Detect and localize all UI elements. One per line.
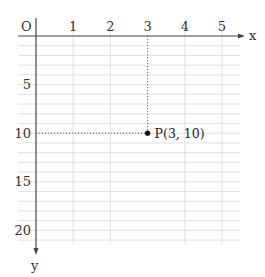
coordinate-plane: O x y 12345 5101520 P(3, 10) [0, 0, 265, 277]
y-axis-label: y [30, 258, 39, 273]
y-tick-label: 15 [14, 174, 31, 189]
y-tick-label: 5 [23, 77, 31, 92]
x-tick-label: 2 [106, 19, 114, 34]
axes [18, 18, 245, 255]
origin-label: O [21, 19, 32, 34]
point-label: P(3, 10) [155, 126, 205, 141]
y-tick-label: 20 [14, 223, 31, 238]
data-points: P(3, 10) [145, 126, 205, 141]
point-marker [145, 131, 150, 136]
x-axis-label: x [249, 28, 257, 43]
y-axis-arrow-icon [34, 248, 39, 255]
x-axis-arrow-icon [238, 34, 245, 39]
x-tick-label: 5 [218, 19, 226, 34]
y-tick-label: 10 [14, 126, 31, 141]
x-tick-label: 1 [69, 19, 77, 34]
x-tick-labels: 12345 [69, 19, 226, 34]
grid-lines [18, 18, 240, 244]
x-tick-label: 4 [181, 19, 189, 34]
x-tick-label: 3 [143, 19, 151, 34]
y-tick-labels: 5101520 [14, 77, 31, 238]
